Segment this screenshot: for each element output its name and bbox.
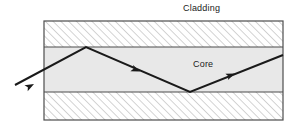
optical-fiber-diagram <box>0 0 298 134</box>
cladding-bottom-region <box>44 92 283 120</box>
fiber-diagram-canvas: Cladding Core <box>0 0 298 134</box>
cladding-top-region <box>44 21 283 47</box>
core-label: Core <box>193 59 213 69</box>
cladding-label: Cladding <box>183 3 220 13</box>
ray-arrowhead-incoming <box>24 81 35 91</box>
